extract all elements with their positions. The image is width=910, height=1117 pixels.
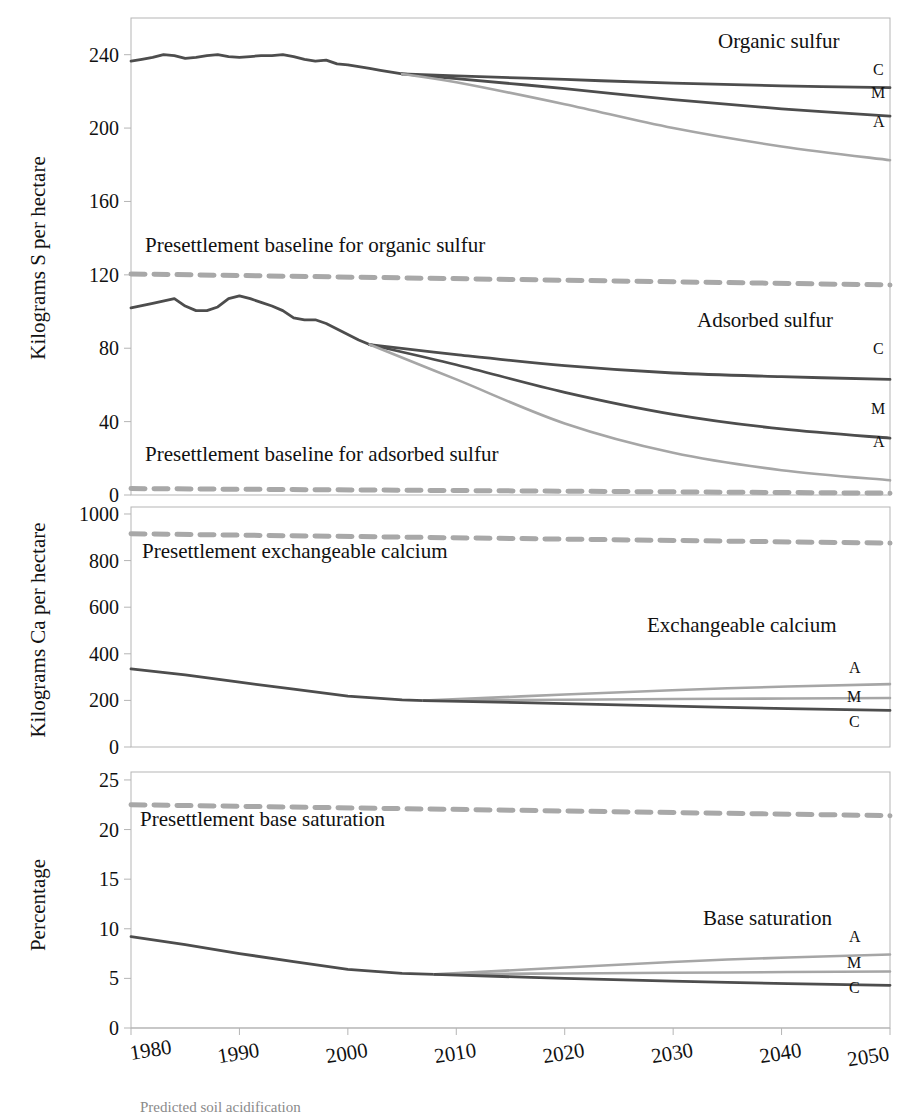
x-tick-label: 1990	[216, 1038, 261, 1068]
y-tick-label: 120	[89, 264, 119, 286]
x-tick-label: 2050	[846, 1041, 891, 1071]
label-scenario-c: C	[849, 979, 860, 996]
base-saturation-baseline-label: Presettlement base saturation	[140, 807, 385, 831]
label-scenario-m: M	[847, 954, 861, 971]
label-scenario-m: M	[847, 688, 861, 705]
y-tick-label: 20	[99, 819, 119, 841]
y-tick-label: 240	[89, 44, 119, 66]
label-scenario-a: A	[849, 659, 861, 676]
y-tick-label: 80	[99, 337, 119, 359]
y-tick-label: 600	[89, 596, 119, 618]
y-axis-label: Percentage	[26, 859, 50, 951]
y-axis-label: Kilograms Ca per hectare	[26, 522, 50, 737]
y-tick-label: 0	[109, 736, 119, 758]
label-scenario-c: C	[873, 61, 884, 78]
figure-caption-partial: Predicted soil acidification	[140, 1099, 301, 1115]
adsorbed-baseline-label: Presettlement baseline for adsorbed sulf…	[145, 442, 498, 466]
x-tick-label: 2020	[541, 1038, 586, 1068]
panel-sulfur: 04080120160200240Kilograms S per hectare	[26, 18, 890, 506]
x-tick-label: 2030	[649, 1038, 694, 1068]
organic-baseline-label: Presettlement baseline for organic sulfu…	[145, 233, 485, 257]
label-scenario-m: M	[871, 400, 885, 417]
y-tick-label: 15	[99, 868, 119, 890]
y-tick-label: 400	[89, 643, 119, 665]
label-scenario-a: A	[849, 928, 861, 945]
calcium-baseline-label: Presettlement exchangeable calcium	[142, 539, 448, 563]
y-tick-label: 1000	[79, 503, 119, 525]
label-scenario-a: A	[873, 113, 885, 130]
label-scenario-m: M	[871, 84, 885, 101]
y-tick-label: 200	[89, 689, 119, 711]
label-scenario-c: C	[849, 713, 860, 730]
y-tick-label: 800	[89, 550, 119, 572]
base-saturation-title: Base saturation	[703, 906, 832, 930]
label-scenario-c: C	[873, 340, 884, 357]
x-tick-label: 2010	[433, 1038, 478, 1068]
y-tick-label: 0	[109, 1017, 119, 1039]
x-axis: 19801990200020102020203020402050	[128, 1028, 891, 1072]
label-scenario-a: A	[873, 433, 885, 450]
adsorbed-sulfur-title: Adsorbed sulfur	[697, 308, 833, 332]
three-panel-line-chart: 04080120160200240Kilograms S per hectare…	[0, 0, 910, 1117]
y-tick-label: 160	[89, 190, 119, 212]
y-tick-label: 200	[89, 117, 119, 139]
x-tick-label: 2000	[324, 1038, 369, 1068]
y-axis-label: Kilograms S per hectare	[26, 156, 50, 360]
y-tick-label: 5	[109, 967, 119, 989]
y-tick-label: 10	[99, 918, 119, 940]
y-tick-label: 25	[99, 769, 119, 791]
figure-container: 04080120160200240Kilograms S per hectare…	[0, 0, 910, 1117]
x-tick-label: 1980	[128, 1035, 173, 1065]
organic-sulfur-title: Organic sulfur	[718, 29, 840, 53]
x-tick-label: 2040	[758, 1038, 803, 1068]
exchangeable-calcium-title: Exchangeable calcium	[647, 613, 836, 637]
y-tick-label: 40	[99, 411, 119, 433]
